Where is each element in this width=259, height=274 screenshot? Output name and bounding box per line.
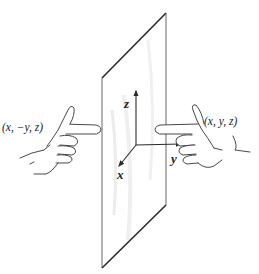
y-axis-label: y <box>169 151 177 166</box>
x-axis-label: x <box>116 167 124 182</box>
left-pointing-hand-icon <box>20 106 101 174</box>
right-point-label: (x, y, z) <box>204 115 237 128</box>
left-point-label: (x, −y, z) <box>2 121 43 134</box>
diagram-canvas: (x, −y, z) (x, y, z) z y x <box>0 0 259 274</box>
z-axis-label: z <box>123 96 130 111</box>
reflection-diagram: (x, −y, z) (x, y, z) z y x <box>0 0 259 274</box>
mirror-plane <box>102 13 166 268</box>
